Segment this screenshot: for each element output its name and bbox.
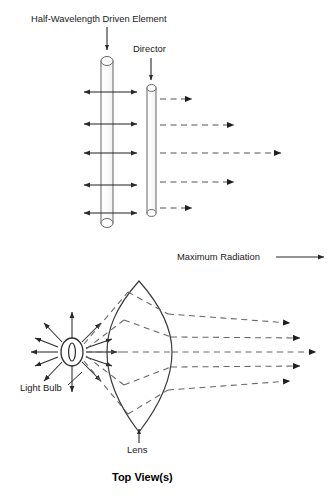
bulb-filament-icon [69,343,76,361]
internal-ray [124,367,171,385]
lens-internal-dashed-rays [122,292,172,414]
output-ray [168,314,290,323]
light-bulb [61,338,83,366]
figure-caption: Top View(s) [112,471,173,483]
light-bulb-label: Light Bulb [20,382,62,393]
figure-root: Half-Wavelength Driven Element Director [0,0,333,496]
forward-radiation-dashed-rays [160,99,281,208]
incident-ray [84,292,128,344]
lens-body [107,281,172,432]
maximum-radiation-label: Maximum Radiation [177,251,260,262]
driven-element-rod [101,57,113,228]
diagram-canvas: Half-Wavelength Driven Element Director [0,0,333,496]
output-ray [168,381,290,390]
internal-ray [124,320,171,337]
director-rod [147,85,156,217]
output-ray [171,337,300,338]
director-label: Director [133,43,166,54]
output-ray [171,366,300,367]
antenna-panel: Half-Wavelength Driven Element Director [31,13,324,262]
internal-ray [128,292,168,314]
driven-element-label: Half-Wavelength Driven Element [31,13,167,24]
lens-label: Lens [127,444,148,455]
incident-dashed-rays [84,292,128,414]
light-bulb-leader-line [68,372,82,385]
output-dashed-rays [168,314,316,390]
lens-panel: Light Bulb Lens [20,281,316,455]
